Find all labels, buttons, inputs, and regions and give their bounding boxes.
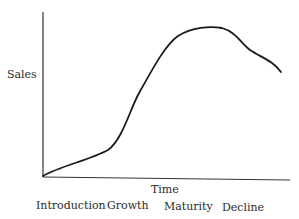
- x-axis-label: Time: [151, 183, 179, 196]
- x-axis: [43, 177, 290, 180]
- y-axis-label: Sales: [7, 68, 37, 81]
- stage-growth: Growth: [107, 199, 149, 212]
- product-life-cycle-chart: [0, 0, 299, 219]
- stage-maturity: Maturity: [164, 200, 213, 213]
- stage-decline: Decline: [222, 201, 264, 214]
- stage-introduction: Introduction: [36, 199, 106, 212]
- sales-curve: [43, 27, 281, 176]
